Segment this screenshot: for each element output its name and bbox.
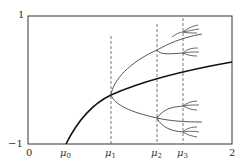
main-stability-curve xyxy=(66,62,232,144)
fan-lower-bottom xyxy=(183,127,199,137)
mu2-sub: 2 xyxy=(158,152,162,160)
fan-lower-mid xyxy=(183,101,199,110)
x-label-mu1: μ1 xyxy=(105,148,116,160)
fan-upper-mid xyxy=(183,48,199,56)
x-label-zero: 0 xyxy=(26,148,32,158)
lower-branch-1 xyxy=(111,95,157,118)
y-label-bottom: −1 xyxy=(8,139,23,149)
upper-branch-2a xyxy=(157,34,202,50)
plot-frame xyxy=(28,16,232,144)
upper-branch-2b xyxy=(157,50,183,54)
bifurcation-plot xyxy=(0,0,245,166)
mu3-sub: 3 xyxy=(184,152,188,160)
y-label-top: 1 xyxy=(18,10,24,20)
x-label-mu0: μ0 xyxy=(60,148,71,160)
x-label-mu3: μ3 xyxy=(177,148,188,160)
upper-branch-1 xyxy=(111,50,157,95)
lower-branch-2a xyxy=(157,106,183,118)
x-label-two: 2 xyxy=(229,148,235,158)
mu1-sub: 1 xyxy=(112,152,116,160)
lower-branch-2b xyxy=(157,118,202,122)
mu0-sub: 0 xyxy=(67,152,71,160)
x-label-mu2: μ2 xyxy=(151,148,162,160)
